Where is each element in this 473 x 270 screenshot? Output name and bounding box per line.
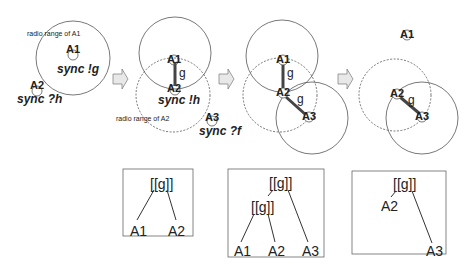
node-a1-label: A1 <box>66 43 80 55</box>
edge-label-g: g <box>179 66 186 80</box>
node-a2-label: A2 <box>390 87 404 99</box>
node-a1-label: A1 <box>167 53 181 65</box>
tree-1: [[g]] A1 A2 <box>123 169 193 239</box>
node-a3-action: sync ?f <box>199 124 242 138</box>
tree-2: [[g]] [[g]] A1 A2 A3 <box>228 169 324 259</box>
tree-leaf: A3 <box>302 243 319 259</box>
tree-leaf: A1 <box>234 243 251 259</box>
node-a2-action: sync !h <box>158 93 200 107</box>
node-a2-label: A2 <box>30 79 44 91</box>
tree-inner-label: [[g]] <box>251 199 274 215</box>
arrow-right-icon <box>338 69 353 89</box>
tree-branch <box>412 191 432 243</box>
edge-label-g: g <box>287 66 294 80</box>
tree-branch <box>241 214 254 242</box>
tree-3: [[g]] A2 A3 <box>352 171 446 259</box>
tree-root-label: [[g]] <box>393 176 416 192</box>
edge-label-g: g <box>408 93 415 107</box>
node-a3-label: A3 <box>415 110 429 122</box>
tree-leaf: A3 <box>426 243 443 259</box>
node-a1-label: A1 <box>276 53 290 65</box>
edge-label-g: g <box>297 92 304 106</box>
tree-branch <box>288 190 308 242</box>
arrow-right-icon <box>219 69 234 89</box>
range-label-a2: radio range of A2 <box>116 115 169 123</box>
stage-1: radio range of A1 A1 sync !g A2 sync ?h <box>17 21 110 106</box>
tree-branch <box>137 190 154 220</box>
node-a2-label: A2 <box>276 86 290 98</box>
tree-leaf: A2 <box>168 223 185 239</box>
node-a1-action: sync !g <box>57 62 100 76</box>
tree-leaf: A2 <box>381 198 398 214</box>
arrow-right-icon <box>113 69 128 89</box>
tree-leaf: A1 <box>130 223 147 239</box>
stage-3: g g A1 A2 A3 <box>243 20 348 154</box>
diagram-canvas: radio range of A1 A1 sync !g A2 sync ?h … <box>0 0 473 270</box>
node-a1-label: A1 <box>400 28 414 40</box>
stage-4: A1 g A2 A3 <box>359 28 458 154</box>
tree-root-label: [[g]] <box>269 175 292 191</box>
range-label-a1: radio range of A1 <box>27 30 80 38</box>
tree-leaf: A2 <box>268 243 285 259</box>
node-a2-action: sync ?h <box>17 92 62 106</box>
node-a3-label: A3 <box>302 110 316 122</box>
node-a3-label: A3 <box>205 111 219 123</box>
tree-branch <box>167 190 176 220</box>
tree-branch <box>268 214 275 242</box>
tree-root-label: [[g]] <box>150 176 173 192</box>
